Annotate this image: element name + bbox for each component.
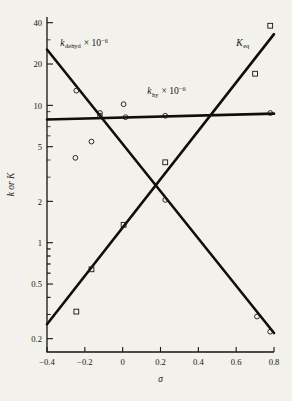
data-point-k_dehyd_x_10^-6 bbox=[121, 102, 126, 107]
y-tick-label: 2 bbox=[38, 197, 42, 207]
data-point-K_eq bbox=[163, 160, 168, 165]
chart-svg: −0.4−0.200.20.40.60.80.20.5125102040kdeh… bbox=[0, 0, 292, 401]
x-tick-label: 0.4 bbox=[193, 357, 204, 367]
axis-lines bbox=[47, 17, 274, 352]
x-tick-label: −0.2 bbox=[77, 357, 93, 367]
x-tick-label: 0.2 bbox=[155, 357, 166, 367]
data-point-K_eq bbox=[253, 71, 258, 76]
y-tick-label: 0.2 bbox=[31, 334, 42, 344]
data-point-k_dehyd_x_10^-6 bbox=[74, 88, 79, 93]
y-tick-label: 5 bbox=[38, 142, 42, 152]
y-tick-label: 40 bbox=[33, 18, 42, 28]
x-tick-label: 0.6 bbox=[231, 357, 242, 367]
k-hy-series-label: khy × 10−6 bbox=[147, 85, 185, 98]
k-dehyd-series-label: kdehyd × 10−6 bbox=[60, 37, 108, 50]
series-line-k_hy_x_10^-6 bbox=[47, 114, 274, 120]
x-tick-label: −0.4 bbox=[39, 357, 55, 367]
data-point-K_eq bbox=[74, 309, 79, 314]
y-tick-label: 1 bbox=[38, 238, 42, 248]
y-tick-label: 10 bbox=[33, 101, 42, 111]
data-point-k_dehyd_x_10^-6 bbox=[73, 155, 78, 160]
y-tick-label: 0.5 bbox=[31, 279, 42, 289]
x-tick-label: 0 bbox=[121, 357, 125, 367]
data-point-k_dehyd_x_10^-6 bbox=[89, 139, 94, 144]
k-eq-series-label: Keq bbox=[235, 37, 250, 49]
data-point-k_dehyd_x_10^-6 bbox=[255, 314, 260, 319]
y-tick-label: 20 bbox=[33, 59, 42, 69]
series-line-K_eq bbox=[47, 34, 274, 324]
x-axis-title: σ bbox=[158, 374, 163, 384]
data-point-K_eq bbox=[268, 23, 273, 28]
x-tick-label: 0.8 bbox=[269, 357, 280, 367]
hammett-plot-figure: −0.4−0.200.20.40.60.80.20.5125102040kdeh… bbox=[0, 0, 292, 401]
y-axis-title: k or K bbox=[6, 172, 16, 196]
